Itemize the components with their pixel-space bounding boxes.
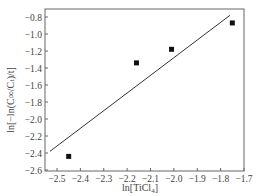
plot-frame (45, 9, 244, 171)
y-tick-label: −1.6 (25, 81, 42, 91)
fit-line-segment (50, 15, 230, 151)
y-tick-label: −2.0 (25, 115, 42, 125)
x-tick-label: −2.5 (48, 174, 65, 184)
data-point-square (230, 20, 235, 25)
x-tick-label: −2.0 (165, 174, 182, 184)
data-points (66, 20, 235, 158)
x-tick-label: −2.3 (95, 174, 112, 184)
y-tick-label: −1.4 (25, 64, 42, 74)
scatter-chart: −2.5−2.4−2.3−2.2−2.1−2.0−1.9−1.8−1.7 −0.… (0, 0, 256, 196)
y-tick-label: −2.6 (25, 166, 42, 176)
plot-area (45, 9, 244, 171)
data-point-square (66, 154, 71, 159)
y-tick-label: −0.8 (25, 13, 42, 23)
x-tick-label: −1.9 (189, 174, 206, 184)
y-tick-label: −1.2 (25, 47, 42, 57)
x-tick-label: −1.8 (212, 174, 229, 184)
data-point-square (134, 60, 139, 65)
data-point-square (169, 47, 174, 52)
y-tick-label: −1.8 (25, 98, 42, 108)
y-axis-label: ln[−ln(C∞/Cₜ)/t] (5, 67, 17, 133)
y-tick-label: −2.2 (25, 132, 42, 142)
y-tick-label: −1.0 (25, 30, 42, 40)
y-tick-label: −2.4 (25, 149, 42, 159)
fit-line (50, 15, 230, 151)
x-tick-label: −1.7 (235, 174, 252, 184)
x-tick-label: −2.4 (72, 174, 89, 184)
